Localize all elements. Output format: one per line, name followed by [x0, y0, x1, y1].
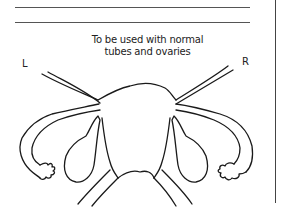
- cervix-left-outer: [78, 170, 110, 204]
- uterus-lower-left: [118, 171, 154, 178]
- right-fimbriae: [218, 163, 246, 180]
- right-ligament-lower: [176, 70, 233, 104]
- left-tube-upper: [20, 104, 99, 178]
- cervix-right: [154, 178, 176, 206]
- left-ligament-lower: [48, 72, 100, 103]
- right-tube-upper: [176, 104, 253, 172]
- cervix-right-outer: [162, 170, 192, 204]
- cervix-left: [92, 178, 118, 206]
- anatomy-diagram: [0, 0, 281, 213]
- left-ovarian-ligament: [102, 118, 118, 178]
- left-ovary: [64, 116, 100, 182]
- right-ovarian-ligament: [154, 118, 170, 178]
- right-ovary: [172, 116, 208, 182]
- right-ligament-upper: [176, 66, 228, 100]
- uterus-outline: [98, 84, 176, 100]
- left-fimbriae: [40, 163, 55, 179]
